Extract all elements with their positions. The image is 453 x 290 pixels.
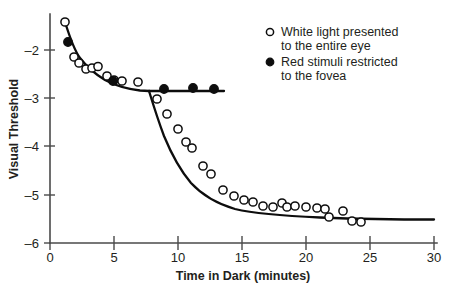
x-tick-label: 30: [427, 250, 441, 265]
data-point-open: [94, 62, 102, 70]
x-tick-label: 0: [46, 250, 53, 265]
data-point-open: [325, 213, 333, 221]
data-point-open: [291, 202, 299, 210]
y-tick-label: –5: [25, 188, 39, 203]
legend-filled-circle-icon: [266, 58, 274, 66]
data-point-open: [283, 203, 291, 211]
data-point-open: [207, 170, 215, 178]
curves-group: [65, 22, 434, 220]
data-point-open: [348, 217, 356, 225]
y-axis-title: Visual Threshold: [7, 79, 21, 180]
legend-entry-label: Red stimuli restricted: [281, 55, 398, 69]
axes-group: [50, 14, 437, 243]
data-point-open: [75, 59, 83, 67]
legend-entry-label: to the entire eye: [281, 39, 371, 53]
x-tick-label: 25: [363, 250, 377, 265]
y-tick-label: –3: [25, 91, 39, 106]
chart-canvas: –2 –3 –4 –5 –6 0 5 10 15 20 25: [0, 0, 453, 290]
data-point-filled: [64, 38, 73, 47]
legend: White light presented to the entire eye …: [266, 25, 398, 83]
legend-entry-label: to the fovea: [281, 69, 346, 83]
x-tick-label: 15: [235, 250, 249, 265]
data-point-open: [134, 78, 142, 86]
x-tick-label: 10: [171, 250, 185, 265]
legend-entry-label: White light presented: [281, 25, 398, 39]
data-point-open: [219, 186, 227, 194]
data-point-open: [61, 18, 69, 26]
data-point-open: [249, 198, 257, 206]
x-axis-title: Time in Dark (minutes): [176, 269, 311, 283]
data-point-open: [188, 144, 196, 152]
data-point-open: [199, 162, 207, 170]
data-point-open: [163, 110, 171, 118]
data-point-open: [153, 95, 161, 103]
y-tick-label: –4: [25, 139, 39, 154]
white-rod-branch-curve: [149, 91, 434, 220]
data-point-open: [321, 205, 329, 213]
data-point-filled: [160, 85, 169, 94]
data-point-open: [313, 204, 321, 212]
x-ticks-group: 0 5 10 15 20 25 30: [46, 236, 441, 265]
data-point-open: [230, 192, 238, 200]
data-point-open: [357, 218, 365, 226]
y-tick-label: –2: [25, 43, 39, 58]
data-point-open: [339, 207, 347, 215]
data-point-open: [259, 202, 267, 210]
data-point-filled: [109, 77, 118, 86]
x-tick-label: 20: [299, 250, 313, 265]
data-point-open: [269, 203, 277, 211]
y-tick-label: –6: [25, 236, 39, 251]
data-point-open: [302, 203, 310, 211]
data-point-open: [174, 125, 182, 133]
data-point-open: [118, 77, 126, 85]
data-point-filled: [189, 84, 198, 93]
legend-open-circle-icon: [266, 28, 273, 35]
dark-adaptation-figure: –2 –3 –4 –5 –6 0 5 10 15 20 25: [0, 0, 453, 290]
data-point-open: [240, 196, 248, 204]
x-tick-label: 5: [110, 250, 117, 265]
data-point-filled: [210, 85, 219, 94]
